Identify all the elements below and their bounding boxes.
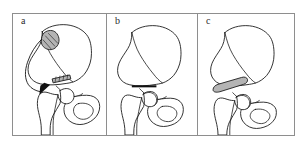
figure-frame: a b [12, 13, 295, 136]
panel-c-drawing [198, 14, 296, 135]
figure-root: a b [0, 0, 305, 150]
panel-a-drawing [13, 14, 106, 135]
panel-a: a [13, 14, 106, 135]
pelvis-outline-c [211, 26, 274, 86]
panel-b-label: b [115, 15, 120, 27]
panel-b: b [106, 14, 197, 135]
panel-c-label: c [206, 15, 210, 27]
harvested-graft-blob-a [41, 30, 59, 49]
panel-b-drawing [107, 14, 197, 135]
panel-c: c [197, 14, 296, 135]
pelvis-outline-b [118, 26, 181, 86]
panel-a-label: a [21, 15, 25, 27]
